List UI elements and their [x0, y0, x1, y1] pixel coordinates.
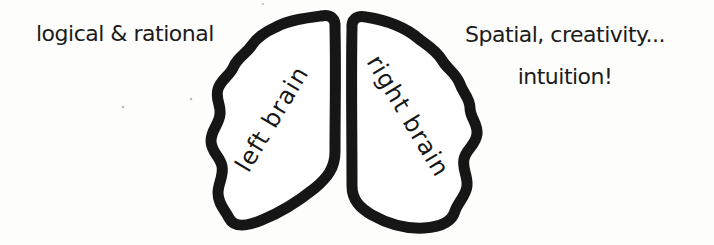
whiteboard-canvas: logical & rational Spatial, creativity..… — [0, 0, 714, 245]
brain-sketch: left brain right brain — [0, 0, 714, 245]
paper-speck — [122, 106, 125, 109]
paper-speck — [190, 98, 193, 101]
paper-speck — [262, 3, 264, 5]
